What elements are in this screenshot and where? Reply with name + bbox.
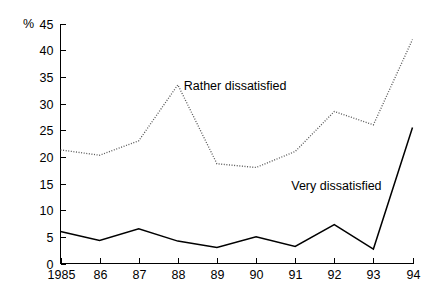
chart-container: 051015202530354045 198586878889909192939… bbox=[0, 0, 439, 296]
x-tick-label: 87 bbox=[133, 268, 147, 282]
y-tick-label: 40 bbox=[40, 44, 54, 58]
series-label-very-dissatisfied: Very dissatisfied bbox=[291, 179, 381, 193]
y-tick-label: 45 bbox=[40, 18, 54, 32]
x-tick-label: 91 bbox=[289, 268, 303, 282]
x-tick-label: 92 bbox=[328, 268, 342, 282]
y-tick-label: 30 bbox=[40, 98, 54, 112]
y-tick-label: 35 bbox=[40, 71, 54, 85]
x-tick-label: 89 bbox=[211, 268, 225, 282]
x-tick-label: 86 bbox=[94, 268, 108, 282]
y-tick-label: 15 bbox=[40, 178, 54, 192]
y-tick-label: 10 bbox=[40, 204, 54, 218]
y-axis-unit-label: % bbox=[23, 17, 34, 31]
y-tick-label: 20 bbox=[40, 151, 54, 165]
x-tick-label: 93 bbox=[367, 268, 381, 282]
y-tick-label: 5 bbox=[47, 231, 54, 245]
x-tick-label: 1985 bbox=[48, 268, 76, 282]
x-tick-label: 88 bbox=[172, 268, 186, 282]
series-label-rather-dissatisfied: Rather dissatisfied bbox=[184, 79, 287, 93]
x-tick-label: 90 bbox=[250, 268, 264, 282]
chart-background bbox=[0, 0, 439, 296]
x-tick-label: 94 bbox=[407, 268, 421, 282]
line-chart: 051015202530354045 198586878889909192939… bbox=[0, 0, 439, 296]
y-tick-label: 25 bbox=[40, 124, 54, 138]
